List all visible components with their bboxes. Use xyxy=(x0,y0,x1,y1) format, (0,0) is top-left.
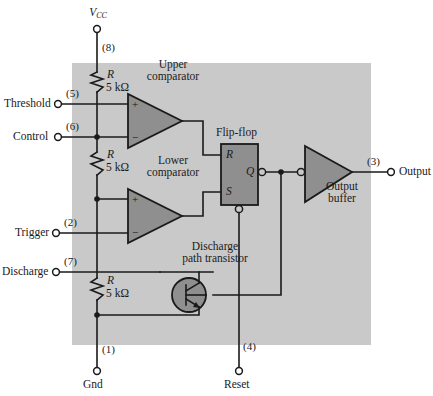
output-buffer-label: Output buffer xyxy=(311,180,373,204)
terminal-gnd[interactable] xyxy=(94,368,101,375)
node-gnd-tap xyxy=(94,312,100,318)
resistor-2-symbol-label: R xyxy=(107,148,114,160)
vcc-label: VCC xyxy=(78,6,118,20)
flip-flop-s-label: S xyxy=(226,185,232,197)
vcc-pin-label: (8) xyxy=(102,42,115,54)
threshold-label: Threshold xyxy=(4,97,51,109)
node-q-branch xyxy=(278,169,284,175)
lower-comparator-minus-icon: − xyxy=(132,227,138,239)
terminal-threshold[interactable] xyxy=(55,101,62,108)
output-buffer-input-bubble-icon xyxy=(297,168,304,175)
resistor-3-symbol-label: R xyxy=(107,274,114,286)
terminal-control[interactable] xyxy=(55,134,62,141)
trigger-pin-label: (2) xyxy=(64,217,77,229)
trigger-label: Trigger xyxy=(15,226,49,238)
resistor-2-value-label: 5 kΩ xyxy=(106,161,129,173)
discharge-label: Discharge xyxy=(2,265,48,277)
upper-comparator-plus-icon: + xyxy=(132,99,138,111)
flip-flop-q-label: Q xyxy=(246,165,254,177)
terminal-trigger[interactable] xyxy=(53,230,60,237)
resistor-3-value-label: 5 kΩ xyxy=(106,287,129,299)
terminal-reset[interactable] xyxy=(236,368,243,375)
terminal-discharge[interactable] xyxy=(53,269,60,276)
resistor-1-symbol-label: R xyxy=(107,68,114,80)
discharge-transistor-label: Discharge path transistor xyxy=(160,240,270,264)
output-pin-label: (3) xyxy=(367,156,380,168)
node-control-tap xyxy=(94,134,100,140)
gnd-label: Gnd xyxy=(83,378,103,390)
flip-flop-title: Flip-flop xyxy=(216,126,257,138)
flip-flop-q-bubble-icon xyxy=(258,168,265,175)
upper-comparator-label: Upper comparator xyxy=(133,58,213,82)
output-label: Output xyxy=(399,165,431,177)
reset-label: Reset xyxy=(224,378,250,390)
gnd-pin-label: (1) xyxy=(102,344,115,356)
flip-flop-reset-bubble-icon xyxy=(235,205,242,212)
resistor-1-value-label: 5 kΩ xyxy=(106,81,129,93)
node-lower-plus-tap xyxy=(94,196,100,202)
flip-flop-r-label: R xyxy=(226,148,233,160)
terminal-vcc[interactable] xyxy=(94,26,101,33)
upper-comparator-minus-icon: − xyxy=(132,132,138,144)
control-label: Control xyxy=(13,130,48,142)
terminal-output[interactable] xyxy=(388,169,395,176)
control-pin-label: (6) xyxy=(66,121,79,133)
discharge-pin-label: (7) xyxy=(64,256,77,268)
lower-comparator-plus-icon: + xyxy=(132,194,138,206)
lower-comparator-label: Lower comparator xyxy=(133,154,213,178)
threshold-pin-label: (5) xyxy=(66,88,79,100)
reset-pin-label: (4) xyxy=(243,341,256,353)
